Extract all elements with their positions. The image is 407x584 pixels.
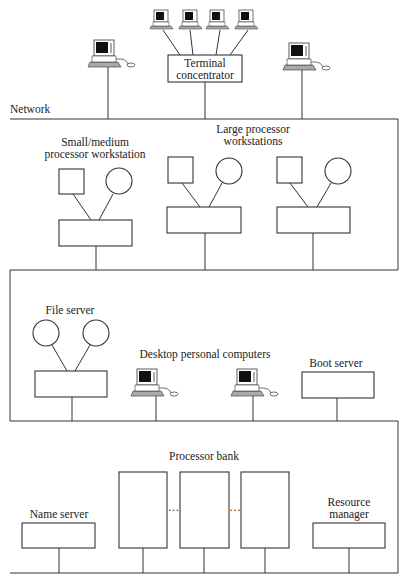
terminal-icon [206, 10, 229, 29]
svg-text:workstations: workstations [224, 135, 283, 147]
processor-bank: ··· ··· [119, 472, 289, 573]
terminal-concentrator-label: Terminal [184, 57, 225, 69]
svg-text:···: ··· [229, 504, 241, 516]
pc-icon [231, 369, 278, 396]
name-server-box [22, 523, 95, 548]
boot-server-label: Boot server [309, 357, 363, 369]
desktop-pcs-label: Desktop personal computers [140, 348, 271, 361]
file-server-label: File server [46, 304, 95, 316]
resource-manager-box [313, 523, 385, 548]
network-diagram: Terminal concentrator Network Small/medi… [0, 0, 407, 584]
file-server [33, 320, 109, 421]
pc-icon [131, 369, 178, 396]
small-workstation-label: Small/medium [61, 136, 129, 148]
large-workstation [167, 157, 242, 270]
svg-text:concentrator: concentrator [176, 69, 234, 81]
network-label: Network [10, 103, 50, 115]
large-workstation [277, 157, 351, 270]
boot-server-box [302, 372, 374, 398]
name-server-label: Name server [30, 508, 89, 520]
processor-bank-label: Processor bank [169, 450, 239, 462]
pc-icon [88, 40, 135, 67]
terminal-icon [179, 10, 202, 29]
small-workstation [59, 168, 132, 270]
svg-text:processor workstation: processor workstation [44, 148, 145, 161]
svg-text:manager: manager [329, 508, 369, 521]
pc-icon [283, 43, 330, 70]
svg-text:···: ··· [168, 504, 180, 516]
resource-manager-label: Resource [328, 496, 371, 508]
terminal-icon [150, 10, 173, 29]
terminal-icon [235, 10, 258, 29]
